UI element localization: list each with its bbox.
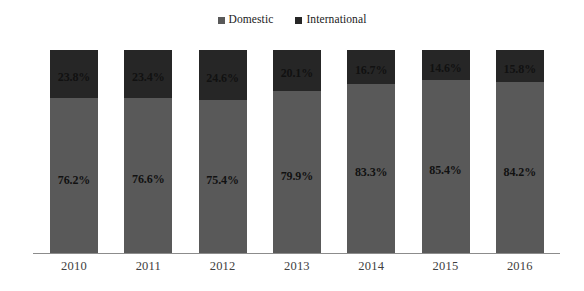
bar-group[interactable]: 24.6%75.4% [199, 50, 247, 253]
x-axis-tick-label: 2012 [199, 259, 247, 274]
x-axis-tick-label: 2010 [50, 259, 98, 274]
bar-value-label-international: 15.8% [504, 63, 537, 75]
bar-segment-domestic[interactable]: 75.4% [199, 100, 247, 253]
bar-value-label-international: 24.6% [206, 72, 239, 84]
bar-segment-international[interactable]: 23.8% [50, 50, 98, 98]
bar-value-label-domestic: 79.9% [281, 170, 314, 182]
x-axis-tick-label: 2015 [422, 259, 470, 274]
bar-group[interactable]: 23.4%76.6% [124, 50, 172, 253]
bar-segment-domestic[interactable]: 79.9% [273, 91, 321, 253]
x-axis-tick-label: 2016 [496, 259, 544, 274]
bar-value-label-international: 23.8% [58, 71, 91, 83]
bar-segment-international[interactable]: 24.6% [199, 50, 247, 100]
plot-area: 23.8%76.2%23.4%76.6%24.6%75.4%20.1%79.9%… [0, 0, 584, 291]
bar-segment-domestic[interactable]: 76.6% [124, 98, 172, 253]
bar-value-label-international: 16.7% [355, 64, 388, 76]
bar-value-label-domestic: 84.2% [504, 166, 537, 178]
bar-segment-international[interactable]: 20.1% [273, 50, 321, 91]
bar-value-label-domestic: 76.2% [58, 174, 91, 186]
bar-segment-domestic[interactable]: 85.4% [422, 80, 470, 253]
bar-value-label-international: 14.6% [429, 62, 462, 74]
bar-segment-domestic[interactable]: 84.2% [496, 82, 544, 253]
bar-group[interactable]: 16.7%83.3% [347, 50, 395, 253]
x-axis-line [33, 253, 560, 254]
bar-group[interactable]: 20.1%79.9% [273, 50, 321, 253]
x-axis-tick-label: 2014 [347, 259, 395, 274]
bar-segment-domestic[interactable]: 76.2% [50, 98, 98, 253]
bar-value-label-international: 23.4% [132, 71, 165, 83]
bar-value-label-domestic: 85.4% [429, 164, 462, 176]
bar-segment-international[interactable]: 14.6% [422, 50, 470, 80]
bar-value-label-domestic: 83.3% [355, 166, 388, 178]
stacked-bar-chart: Domestic International 23.8%76.2%23.4%76… [0, 0, 584, 291]
bar-group[interactable]: 14.6%85.4% [422, 50, 470, 253]
bar-segment-international[interactable]: 23.4% [124, 50, 172, 98]
bar-group[interactable]: 15.8%84.2% [496, 50, 544, 253]
bar-value-label-domestic: 76.6% [132, 173, 165, 185]
bar-group[interactable]: 23.8%76.2% [50, 50, 98, 253]
bar-segment-domestic[interactable]: 83.3% [347, 84, 395, 253]
bar-value-label-domestic: 75.4% [206, 174, 239, 186]
x-axis-tick-label: 2013 [273, 259, 321, 274]
bar-segment-international[interactable]: 15.8% [496, 50, 544, 82]
x-axis-tick-label: 2011 [124, 259, 172, 274]
bar-value-label-international: 20.1% [281, 67, 314, 79]
bar-segment-international[interactable]: 16.7% [347, 50, 395, 84]
